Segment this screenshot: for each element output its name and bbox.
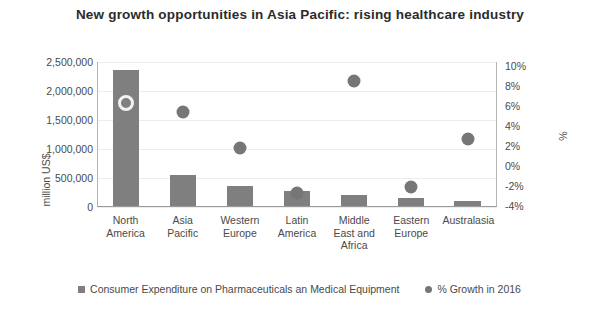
y-tick-right-10: 10% xyxy=(505,60,545,72)
dot-asia-pacific[interactable] xyxy=(177,105,190,118)
dot-north-america[interactable] xyxy=(118,95,134,111)
y-tick-left-500000: 500,000 xyxy=(21,172,93,184)
x-label-asia-pacific: Asia Pacific xyxy=(154,210,211,268)
x-label-western-europe: Western Europe xyxy=(211,210,268,268)
y-axis-left: 2,500,000 2,000,000 1,500,000 1,000,000 … xyxy=(18,62,93,207)
square-swatch-icon xyxy=(78,286,85,293)
chart-title: New growth opportunities in Asia Pacific… xyxy=(70,6,530,24)
gridline xyxy=(98,120,496,121)
legend-item-growth[interactable]: % Growth in 2016 xyxy=(425,283,520,295)
y-tick-right-2: 2% xyxy=(505,140,545,152)
chart-container: New growth opportunities in Asia Pacific… xyxy=(0,0,599,313)
gridline xyxy=(98,91,496,92)
gridline xyxy=(98,207,496,208)
y-axis-left-title: million US$ xyxy=(40,140,52,220)
gridline xyxy=(98,62,496,63)
x-label-middle-east-and-africa: Middle East and Africa xyxy=(326,210,383,268)
x-axis-baseline xyxy=(97,206,497,207)
y-tick-left-0: 0 xyxy=(21,201,93,213)
x-label-north-america: North America xyxy=(97,210,154,268)
y-tick-right-6: 6% xyxy=(505,100,545,112)
y-tick-left-2000000: 2,000,000 xyxy=(21,85,93,97)
bar-western-europe[interactable] xyxy=(227,186,253,207)
y-tick-right-8: 8% xyxy=(505,80,545,92)
y-tick-left-1000000: 1,000,000 xyxy=(21,143,93,155)
y-tick-left-1500000: 1,500,000 xyxy=(21,114,93,126)
y-axis-right: 10% 8% 6% 4% 2% 0% -2% -4% xyxy=(505,62,549,207)
legend-label-growth: % Growth in 2016 xyxy=(437,283,520,295)
y-tick-right-neg2: -2% xyxy=(505,180,545,192)
dot-eastern-europe[interactable] xyxy=(404,181,417,194)
dot-swatch-icon xyxy=(425,286,432,293)
dot-western-europe[interactable] xyxy=(234,141,247,154)
x-label-eastern-europe: Eastern Europe xyxy=(383,210,440,268)
x-label-australasia: Australasia xyxy=(440,210,497,268)
y-axis-right-title: % xyxy=(557,126,569,146)
bar-asia-pacific[interactable] xyxy=(170,175,196,207)
y-tick-right-neg4: -4% xyxy=(505,200,545,212)
dot-middle-east-and-africa[interactable] xyxy=(347,74,360,87)
x-axis-labels: North AmericaAsia PacificWestern EuropeL… xyxy=(97,210,497,268)
plot-area xyxy=(97,62,497,207)
y-tick-right-0: 0% xyxy=(505,160,545,172)
legend-label-expenditure: Consumer Expenditure on Pharmaceuticals … xyxy=(90,283,399,295)
dot-australasia[interactable] xyxy=(461,132,474,145)
dot-latin-america[interactable] xyxy=(291,186,304,199)
gridline xyxy=(98,178,496,179)
bar-north-america[interactable] xyxy=(113,70,139,207)
x-label-latin-america: Latin America xyxy=(268,210,325,268)
legend-item-expenditure[interactable]: Consumer Expenditure on Pharmaceuticals … xyxy=(78,283,399,295)
chart-legend: Consumer Expenditure on Pharmaceuticals … xyxy=(0,283,599,295)
y-tick-left-2500000: 2,500,000 xyxy=(21,56,93,68)
gridline xyxy=(98,149,496,150)
y-tick-right-4: 4% xyxy=(505,120,545,132)
